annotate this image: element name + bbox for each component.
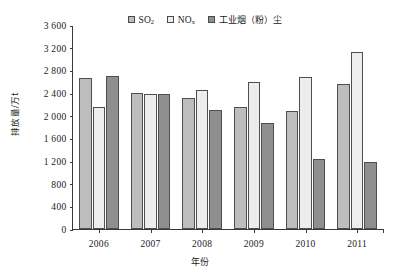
bar-industrial-smoke-dust-2009 bbox=[261, 123, 274, 229]
bar-NOx-2006 bbox=[93, 107, 106, 229]
bar-SO2-2011 bbox=[337, 84, 350, 229]
x-axis-tick-label-2007: 2007 bbox=[140, 239, 160, 249]
x-axis-tick-label-2010: 2010 bbox=[295, 239, 315, 249]
y-axis-tick-label: 2 000 bbox=[44, 112, 70, 122]
bar-SO2-2010 bbox=[286, 111, 299, 229]
bar-industrial-smoke-dust-2008 bbox=[209, 110, 222, 229]
bar-SO2-2009 bbox=[234, 107, 247, 229]
x-axis-tick-mark bbox=[357, 229, 358, 233]
bar-group: 2011 bbox=[331, 26, 383, 229]
y-axis-tick-label: 1 200 bbox=[44, 157, 70, 167]
y-axis-tick-label: 3 600 bbox=[44, 21, 70, 31]
legend-swatch-so2 bbox=[128, 16, 135, 23]
bar-industrial-smoke-dust-2011 bbox=[364, 162, 377, 229]
bar-NOx-2011 bbox=[351, 52, 364, 229]
x-axis-tick-label-2011: 2011 bbox=[347, 239, 367, 249]
y-axis-tick-label: 400 bbox=[51, 202, 69, 212]
legend-item-industrial-smoke-dust: 工业烟（粉）尘 bbox=[208, 13, 282, 26]
y-axis-tick: 0 bbox=[61, 225, 73, 235]
y-axis-tick: 3 200 bbox=[44, 44, 73, 54]
bar-group: 2007 bbox=[125, 26, 177, 229]
legend-label-so2: SO2 bbox=[139, 15, 155, 25]
y-axis-label: 排放量/万t bbox=[8, 79, 20, 149]
x-axis-tick-label-2008: 2008 bbox=[192, 239, 212, 249]
bar-group: 2009 bbox=[228, 26, 280, 229]
emissions-bar-chart: SO2 NOx 工业烟（粉）尘 排放量/万t 04008001 2001 600… bbox=[0, 0, 400, 276]
bar-NOx-2009 bbox=[248, 82, 261, 229]
x-axis-label: 年份 bbox=[0, 255, 400, 268]
x-axis-tick-mark bbox=[151, 229, 152, 233]
y-axis-tick: 400 bbox=[51, 202, 73, 212]
x-axis-tick-mark bbox=[254, 229, 255, 233]
y-axis-tick: 2 000 bbox=[44, 112, 73, 122]
legend-swatch-industrial-smoke-dust bbox=[208, 16, 215, 23]
bar-SO2-2008 bbox=[182, 98, 195, 229]
legend-swatch-nox bbox=[167, 16, 174, 23]
bar-NOx-2007 bbox=[144, 94, 157, 229]
y-axis-tick-label: 1 600 bbox=[44, 134, 70, 144]
bar-NOx-2010 bbox=[299, 77, 312, 229]
bar-group: 2008 bbox=[176, 26, 228, 229]
y-axis-tick: 2 800 bbox=[44, 66, 73, 76]
y-axis-tick-label: 3 200 bbox=[44, 44, 70, 54]
legend-item-nox: NOx bbox=[167, 15, 195, 25]
y-axis-tick: 2 400 bbox=[44, 89, 73, 99]
bar-SO2-2006 bbox=[79, 78, 92, 229]
y-axis-tick-label: 2 400 bbox=[44, 89, 70, 99]
x-axis-end-tick-mark bbox=[383, 229, 384, 233]
y-axis-tick: 3 600 bbox=[44, 21, 73, 31]
bar-group: 2010 bbox=[280, 26, 332, 229]
y-axis-tick: 800 bbox=[51, 180, 73, 190]
x-axis-tick-label-2009: 2009 bbox=[244, 239, 264, 249]
bar-NOx-2008 bbox=[196, 90, 209, 229]
y-axis-tick-label: 0 bbox=[61, 225, 69, 235]
y-axis-tick-label: 2 800 bbox=[44, 66, 70, 76]
chart-legend: SO2 NOx 工业烟（粉）尘 bbox=[128, 13, 282, 26]
x-axis-tick-mark bbox=[306, 229, 307, 233]
x-axis-tick-mark bbox=[202, 229, 203, 233]
bar-industrial-smoke-dust-2006 bbox=[106, 76, 119, 229]
bar-industrial-smoke-dust-2007 bbox=[158, 94, 171, 229]
x-axis-tick-label-2006: 2006 bbox=[89, 239, 109, 249]
y-axis-tick: 1 600 bbox=[44, 134, 73, 144]
legend-label-nox: NOx bbox=[178, 15, 195, 25]
legend-item-so2: SO2 bbox=[128, 15, 154, 25]
bar-SO2-2007 bbox=[131, 93, 144, 229]
bar-industrial-smoke-dust-2010 bbox=[313, 159, 326, 229]
y-axis-tick: 1 200 bbox=[44, 157, 73, 167]
y-axis-tick-label: 800 bbox=[51, 180, 69, 190]
bar-group: 2006 bbox=[73, 26, 125, 229]
plot-area: 04008001 2001 6002 0002 4002 8003 2003 6… bbox=[72, 26, 383, 230]
bar-groups: 200620072008200920102011 bbox=[73, 26, 383, 229]
x-axis-tick-mark bbox=[99, 229, 100, 233]
legend-label-industrial-smoke-dust: 工业烟（粉）尘 bbox=[219, 13, 283, 26]
y-axis-tick-mark bbox=[70, 230, 74, 231]
